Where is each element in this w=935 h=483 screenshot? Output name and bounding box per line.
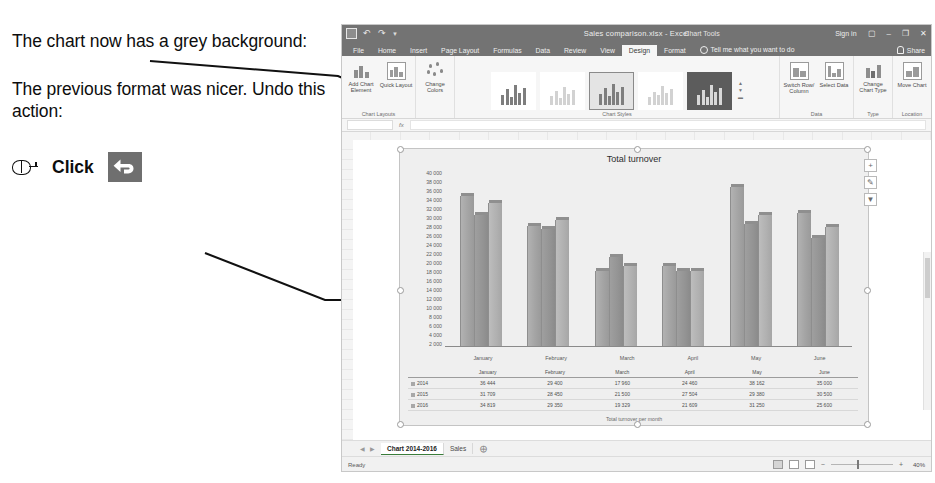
resize-handle-e[interactable] — [864, 287, 871, 294]
worksheet-surface[interactable]: Total turnover 40 000 38 000 36 000 34 0… — [342, 132, 931, 440]
formula-input[interactable] — [410, 120, 926, 130]
undo-arrow-icon[interactable] — [108, 152, 142, 182]
chart-style-option-3-selected[interactable] — [589, 72, 634, 110]
resize-handle-ne[interactable] — [864, 146, 871, 153]
bar-2015-january[interactable] — [474, 215, 488, 347]
tab-design[interactable]: Design — [622, 45, 657, 57]
gallery-scroll-down-icon[interactable]: ▼ — [738, 88, 743, 93]
chart-styles-gallery[interactable]: ▲ ▼ ▬ — [486, 59, 748, 118]
bar-2014-june[interactable] — [797, 213, 811, 347]
zoom-slider-knob[interactable] — [857, 460, 859, 469]
chart-title[interactable]: Total turnover — [400, 154, 868, 164]
bar-2016-march[interactable] — [623, 266, 637, 347]
table-cell: 30 500 — [791, 391, 858, 397]
bar-2016-april[interactable] — [690, 271, 704, 347]
sheet-tab-chart[interactable]: Chart 2014-2016 — [381, 443, 444, 455]
resize-handle-s[interactable] — [634, 421, 641, 428]
tab-file[interactable]: File — [346, 45, 371, 57]
table-column-header: June — [791, 369, 858, 375]
click-instruction-row: Click — [12, 152, 332, 182]
chart-styles-button[interactable]: ✎ — [864, 176, 877, 189]
sheet-nav-prev-icon[interactable]: ◀ — [360, 445, 365, 452]
normal-view-icon[interactable] — [773, 460, 783, 469]
zoom-slider[interactable] — [831, 464, 893, 465]
minimize-button[interactable]: – — [887, 29, 891, 38]
bar-group-march[interactable] — [595, 171, 637, 347]
sheet-tab-sales[interactable]: Sales — [444, 443, 473, 454]
page-break-view-icon[interactable] — [805, 460, 815, 469]
sheet-nav-next-icon[interactable]: ▶ — [370, 445, 375, 452]
bar-2014-february[interactable] — [527, 226, 541, 347]
add-chart-element-button[interactable]: Add Chart Element — [346, 59, 376, 94]
gallery-scroll-controls[interactable]: ▲ ▼ ▬ — [738, 81, 743, 100]
chart-elements-button[interactable]: + — [864, 159, 877, 172]
bar-group-may[interactable] — [730, 171, 772, 347]
zoom-in-button[interactable]: + — [899, 461, 903, 468]
chart-style-option-1[interactable] — [491, 72, 536, 110]
tab-home[interactable]: Home — [371, 45, 403, 57]
chart-style-option-4[interactable] — [638, 72, 683, 110]
plot-area[interactable]: 40 000 38 000 36 000 34 000 32 000 30 00… — [447, 171, 852, 347]
chart-style-option-5[interactable] — [687, 72, 732, 110]
tab-formulas[interactable]: Formulas — [486, 45, 528, 57]
select-data-button[interactable]: Select Data — [819, 59, 849, 88]
group-caption-type: Type — [854, 111, 892, 117]
gallery-more-icon[interactable]: ▬ — [738, 95, 743, 100]
restore-button[interactable]: ❐ — [902, 29, 909, 38]
chart-object[interactable]: Total turnover 40 000 38 000 36 000 34 0… — [399, 148, 869, 426]
chart-filters-button[interactable]: ▼ — [864, 193, 877, 206]
sign-in-label[interactable]: Sign in — [835, 30, 856, 37]
close-button[interactable]: ✕ — [920, 29, 927, 38]
scrollbar-thumb[interactable] — [925, 258, 930, 298]
change-chart-type-button[interactable]: Change Chart Type — [858, 59, 888, 94]
resize-handle-nw[interactable] — [397, 146, 404, 153]
zoom-percent-label[interactable]: 40% — [909, 462, 925, 468]
tab-data[interactable]: Data — [529, 45, 557, 57]
y-tick-label: 24 000 — [426, 243, 445, 248]
tab-insert[interactable]: Insert — [403, 45, 434, 57]
bar-2016-may[interactable] — [758, 215, 772, 347]
resize-handle-w[interactable] — [397, 287, 404, 294]
tab-review[interactable]: Review — [557, 45, 593, 57]
tell-me-box[interactable]: Tell me what you want to do — [693, 44, 802, 57]
table-cell: 34 819 — [454, 402, 521, 408]
bar-2014-january[interactable] — [460, 196, 474, 347]
name-box[interactable] — [347, 120, 393, 130]
bar-group-june[interactable] — [797, 171, 839, 347]
bar-2016-june[interactable] — [825, 227, 839, 347]
bar-2015-february[interactable] — [541, 229, 555, 347]
tab-page-layout[interactable]: Page Layout — [434, 45, 486, 57]
tab-view[interactable]: View — [593, 45, 622, 57]
bar-group-april[interactable] — [662, 171, 704, 347]
chart-style-option-2[interactable] — [540, 72, 585, 110]
change-colors-button[interactable]: Change Colors — [420, 59, 450, 94]
resize-handle-se[interactable] — [864, 421, 871, 428]
bar-2015-june[interactable] — [811, 238, 825, 347]
gallery-scroll-up-icon[interactable]: ▲ — [738, 81, 743, 86]
bar-group-january[interactable] — [460, 171, 502, 347]
bar-2014-may[interactable] — [730, 187, 744, 347]
table-cell: 35 000 — [791, 380, 858, 386]
bar-2015-april[interactable] — [676, 271, 690, 347]
bar-2015-march[interactable] — [609, 257, 623, 347]
switch-row-column-button[interactable]: Switch Row/ Column — [784, 59, 814, 95]
bar-2014-april[interactable] — [662, 266, 676, 347]
bar-2016-january[interactable] — [488, 203, 502, 347]
move-chart-button[interactable]: Move Chart — [897, 59, 927, 88]
bar-2016-february[interactable] — [555, 220, 569, 347]
quick-layout-button[interactable]: Quick Layout — [381, 59, 411, 88]
sheet-nav-arrows[interactable]: ◀ ▶ — [360, 445, 375, 452]
zoom-out-button[interactable]: − — [821, 461, 825, 468]
ribbon-display-options-icon[interactable]: ▢ — [868, 29, 876, 38]
table-cell: 21 500 — [589, 391, 656, 397]
resize-handle-sw[interactable] — [397, 421, 404, 428]
add-sheet-button[interactable]: ⨁ — [473, 445, 494, 453]
bar-2015-may[interactable] — [744, 224, 758, 347]
resize-handle-n[interactable] — [634, 146, 641, 153]
vertical-scrollbar[interactable] — [923, 252, 931, 410]
page-layout-view-icon[interactable] — [789, 460, 799, 469]
bar-group-february[interactable] — [527, 171, 569, 347]
share-button[interactable]: Share — [897, 46, 925, 56]
bar-2014-march[interactable] — [595, 271, 609, 347]
tab-format[interactable]: Format — [657, 45, 693, 57]
